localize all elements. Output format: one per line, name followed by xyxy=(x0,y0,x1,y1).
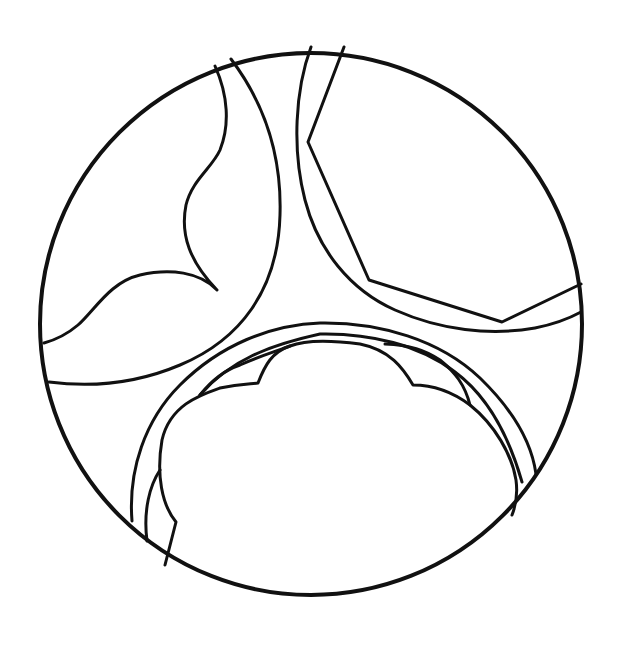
right-lobe-outer-curve xyxy=(297,47,581,331)
line-art-drawing xyxy=(0,0,621,647)
cloud-shape xyxy=(160,341,517,565)
bottom-outer-arch xyxy=(131,323,536,521)
left-leaf-shape xyxy=(44,66,226,343)
left-lobe-outer-curve xyxy=(49,59,280,384)
